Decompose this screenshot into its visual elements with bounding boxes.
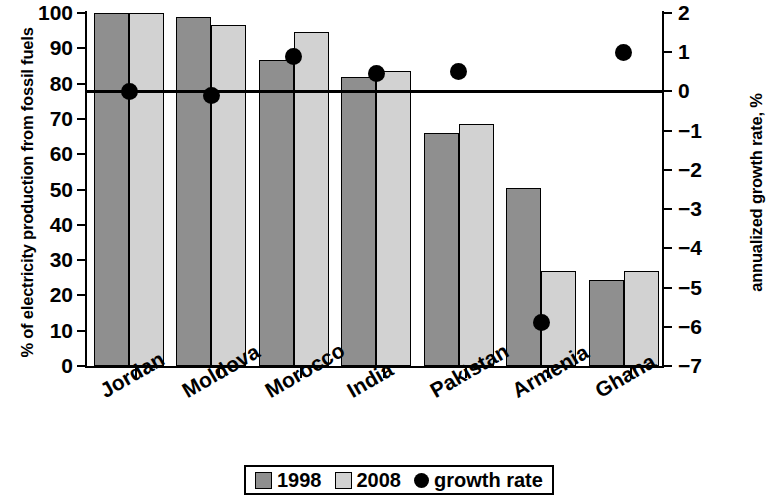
- y-axis-left-tick: [77, 12, 86, 14]
- y-axis-right-tick: [663, 365, 672, 367]
- y-axis-left-tick-label: 0: [29, 355, 73, 376]
- bar-1998: [424, 133, 459, 366]
- y-axis-right-tick-label: −4: [678, 237, 730, 258]
- bar-2008: [459, 124, 494, 366]
- chart-legend: 19982008growth rate: [244, 465, 554, 495]
- y-axis-left-tick: [77, 365, 86, 367]
- y-axis-right-tick-label: −1: [678, 120, 730, 141]
- y-axis-right-tick-label: −7: [678, 355, 730, 376]
- y-axis-left-tick-label: 70: [29, 108, 73, 129]
- y-axis-right-tick: [663, 287, 672, 289]
- growth-rate-dot: [615, 44, 632, 61]
- y-axis-right-tick-label: −5: [678, 277, 730, 298]
- y-axis-left-tick: [77, 189, 86, 191]
- y-axis-right-tick: [663, 326, 672, 328]
- legend-label: growth rate: [434, 470, 543, 490]
- y-axis-left-tick: [77, 224, 86, 226]
- y-axis-left-tick-label: 30: [29, 249, 73, 270]
- growth-rate-dot: [533, 314, 550, 331]
- y-axis-right-title: annualized growth rate, %: [747, 13, 766, 373]
- y-axis-left-tick-label: 100: [29, 2, 73, 23]
- bar-2008: [376, 71, 411, 366]
- y-axis-right-tick-label: 0: [678, 80, 730, 101]
- y-axis-left-tick-label: 90: [29, 37, 73, 58]
- y-axis-left-tick-label: 50: [29, 179, 73, 200]
- bar-1998: [176, 17, 211, 366]
- legend-entry: growth rate: [414, 470, 543, 490]
- y-axis-right-tick: [663, 208, 672, 210]
- y-axis-left-tick: [77, 153, 86, 155]
- y-axis-right-tick: [663, 90, 672, 92]
- legend-entry: 1998: [255, 470, 322, 490]
- y-axis-right-tick: [663, 51, 672, 53]
- y-axis-right-tick: [663, 130, 672, 132]
- y-axis-left-tick-label: 20: [29, 284, 73, 305]
- y-axis-right-tick-label: −6: [678, 316, 730, 337]
- plot-area: [86, 13, 663, 366]
- y-axis-left-tick-label: 40: [29, 214, 73, 235]
- y-axis-right-tick-label: 1: [678, 41, 730, 62]
- chart-figure: % of electricity production from fossil …: [0, 0, 775, 495]
- y-axis-left-tick: [77, 294, 86, 296]
- growth-rate-dot: [285, 48, 302, 65]
- y-axis-left-tick-label: 60: [29, 143, 73, 164]
- y-axis-left-tick: [77, 330, 86, 332]
- zero-reference-line: [86, 90, 663, 93]
- y-axis-right-tick: [663, 12, 672, 14]
- y-axis-right-tick-label: 2: [678, 2, 730, 23]
- y-axis-left-tick: [77, 259, 86, 261]
- bar-2008: [211, 25, 246, 366]
- bar-2008: [294, 32, 329, 366]
- legend-label: 2008: [357, 470, 402, 490]
- growth-rate-dot: [203, 87, 220, 104]
- growth-rate-dot: [450, 63, 467, 80]
- y-axis-left-tick: [77, 83, 86, 85]
- bar-1998: [341, 77, 376, 366]
- y-axis-left-tick: [77, 118, 86, 120]
- y-axis-right-tick: [663, 169, 672, 171]
- black-circle-icon: [414, 473, 429, 488]
- y-axis-right-tick-label: −2: [678, 159, 730, 180]
- legend-entry: 2008: [335, 470, 402, 490]
- growth-rate-dot: [368, 65, 385, 82]
- y-axis-left-tick: [77, 47, 86, 49]
- bar-1998: [259, 60, 294, 366]
- bar-1998: [506, 188, 541, 366]
- dark-gray-square-icon: [255, 472, 272, 489]
- y-axis-right-tick: [663, 247, 672, 249]
- bar-1998: [589, 280, 624, 366]
- light-gray-square-icon: [335, 472, 352, 489]
- y-axis-right-tick-label: −3: [678, 198, 730, 219]
- y-axis-left-tick-label: 10: [29, 320, 73, 341]
- bar-2008: [129, 13, 164, 366]
- bar-1998: [94, 13, 129, 366]
- legend-label: 1998: [277, 470, 322, 490]
- y-axis-left-tick-label: 80: [29, 73, 73, 94]
